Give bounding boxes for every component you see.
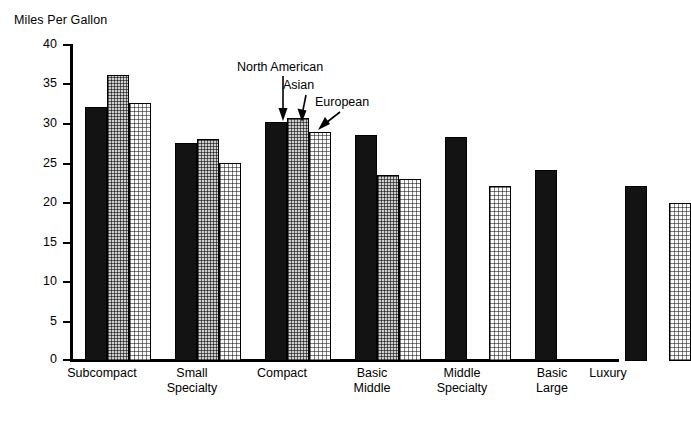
bar-north-american-basic-large — [535, 170, 557, 361]
bar-european-luxury — [669, 203, 691, 361]
bar-european-subcompact — [129, 103, 151, 361]
bars-layer — [0, 0, 634, 361]
annotation-label-european: European — [315, 95, 369, 109]
bar-north-american-basic-middle — [355, 135, 377, 361]
bar-north-american-luxury — [625, 186, 647, 361]
bar-asian-basic-middle — [377, 175, 399, 361]
bar-european-small-specialty — [219, 163, 241, 361]
bar-asian-small-specialty — [197, 139, 219, 361]
bar-asian-subcompact — [107, 75, 129, 361]
x-label-luxury: Luxury — [573, 366, 643, 381]
bar-european-middle-specialty — [489, 186, 511, 361]
bar-european-compact — [309, 132, 331, 361]
bar-north-american-compact — [265, 122, 287, 361]
bar-north-american-subcompact — [85, 107, 107, 361]
bar-asian-compact — [287, 118, 309, 361]
bar-european-basic-middle — [399, 179, 421, 361]
bar-north-american-middle-specialty — [445, 137, 467, 361]
annotation-label-asian: Asian — [283, 78, 314, 92]
annotation-label-north-american: North American — [237, 60, 323, 74]
bar-north-american-small-specialty — [175, 143, 197, 361]
